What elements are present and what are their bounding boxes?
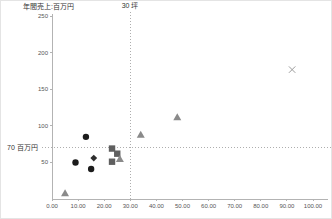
data-point-square xyxy=(109,159,115,165)
x-tick-label: 50.00 xyxy=(175,203,191,209)
x-tick-label: 60.00 xyxy=(201,203,217,209)
data-point-circle xyxy=(72,159,78,165)
x-tick-label: 100.00 xyxy=(304,203,323,209)
data-point-triangle xyxy=(137,131,145,138)
data-point-triangle xyxy=(173,113,181,120)
y-tick-label: 150 xyxy=(38,86,49,92)
chart-canvas: 501001502002500.0010.0020.0030.0040.0050… xyxy=(0,0,332,219)
scatter-plot: 501001502002500.0010.0020.0030.0040.0050… xyxy=(1,1,332,219)
x-tick-label: 0.00 xyxy=(46,203,58,209)
x-tick-label: 20.00 xyxy=(97,203,113,209)
data-point-circle xyxy=(83,134,89,140)
data-point-diamond xyxy=(90,155,97,162)
vline-30tsubo-label: 30 坪 xyxy=(122,2,139,10)
y-axis-title: 年間売上:百万円 xyxy=(23,3,74,11)
x-tick-label: 80.00 xyxy=(253,203,269,209)
x-tick-label: 30.00 xyxy=(123,203,139,209)
y-tick-label: 200 xyxy=(38,50,49,56)
data-point-circle xyxy=(88,166,94,172)
x-tick-label: 70.00 xyxy=(227,203,243,209)
data-point-triangle xyxy=(61,189,69,196)
x-tick-label: 90.00 xyxy=(279,203,295,209)
y-tick-label: 250 xyxy=(38,13,49,19)
y-tick-label: 50 xyxy=(41,159,48,165)
y-tick-label: 100 xyxy=(38,123,49,129)
hline-70million-label: 70 百万円 xyxy=(7,144,39,152)
x-tick-label: 40.00 xyxy=(149,203,165,209)
x-tick-label: 10.00 xyxy=(71,203,87,209)
data-point-cross xyxy=(289,66,295,72)
